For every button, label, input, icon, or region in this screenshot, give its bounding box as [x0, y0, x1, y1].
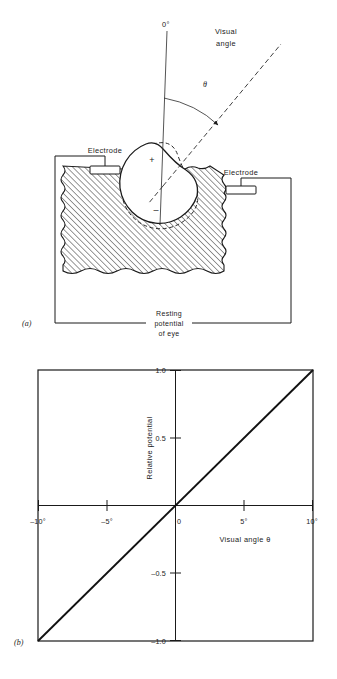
figure-canvas: + – 0° Visual angle θ Electrode E: [0, 0, 337, 679]
electrode-right-label: Electrode: [224, 168, 258, 177]
x-tick-label-0: 0: [177, 517, 181, 526]
theta-symbol-label: θ: [203, 80, 207, 89]
visual-angle-label-line1: Visual: [215, 27, 237, 36]
x-tick-label-neg-10: –10°: [30, 517, 46, 526]
panel-a-label: (a): [22, 319, 32, 328]
x-axis-title: Visual angle θ: [219, 535, 270, 544]
eyeball: [120, 143, 198, 224]
y-tick-label-0-5: 0.5: [155, 434, 166, 443]
x-tick-label-5: 5°: [240, 517, 247, 526]
x-tick-label-10: 10°: [306, 517, 317, 526]
resting-potential-line3: of eye: [159, 330, 180, 338]
x-tick-label-neg-5: –5°: [101, 517, 112, 526]
electrode-left-label: Electrode: [88, 146, 122, 155]
y-tick-label-neg-1: –1.0: [151, 637, 166, 646]
zero-degree-label: 0°: [162, 20, 170, 29]
figure-page: + – 0° Visual angle θ Electrode E: [0, 0, 337, 679]
y-axis-title: Relative potential: [145, 416, 154, 479]
polarity-negative-label: –: [153, 205, 158, 215]
resting-potential-line2: potential: [154, 320, 183, 328]
resting-potential-line1: Resting: [156, 310, 182, 318]
visual-angle-arc: [164, 98, 218, 125]
y-tick-label-1: 1.0: [155, 366, 166, 375]
polarity-positive-label: +: [149, 155, 154, 165]
visual-angle-label-line2: angle: [216, 39, 236, 48]
panel-b-label: (b): [14, 638, 24, 647]
y-tick-label-neg-0-5: –0.5: [151, 569, 166, 578]
